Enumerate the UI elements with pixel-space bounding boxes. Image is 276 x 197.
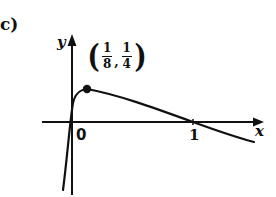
y-numerator: 1 [122,42,130,55]
function-graph [0,0,276,197]
function-curve [63,89,254,190]
maximum-point-marker [83,85,91,93]
x-axis-label: x [255,124,264,139]
x-coordinate-fraction: 1 8 [102,42,112,70]
y-denominator: 4 [122,58,130,71]
close-paren: ) [134,40,146,72]
y-axis-label: y [57,35,66,50]
x-numerator: 1 [103,42,111,55]
y-axis-arrow-icon [68,34,77,46]
coordinate-separator: , [114,54,119,69]
y-coordinate-fraction: 1 4 [122,42,132,70]
x-tick-label-1: 1 [189,128,199,143]
figure-part-label: c) [0,16,18,33]
open-paren: ( [88,40,100,72]
origin-label: 0 [76,128,86,143]
x-denominator: 8 [103,58,111,71]
maximum-point-label: ( 1 8 , 1 4 ) [86,40,148,72]
